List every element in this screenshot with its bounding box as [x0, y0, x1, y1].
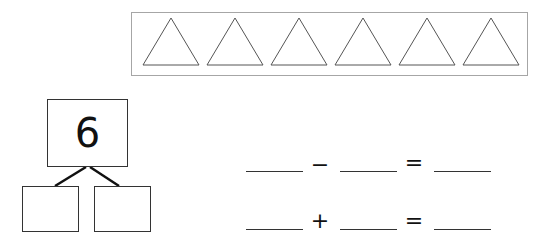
equals-sign: = [402, 210, 426, 232]
equation-2-blank-2[interactable] [340, 229, 397, 230]
minus-sign: − [308, 154, 332, 176]
plus-sign: + [308, 210, 332, 232]
equation-1-blank-1[interactable] [246, 171, 303, 172]
equals-sign: = [402, 152, 426, 174]
equation-1-result[interactable] [434, 171, 491, 172]
equation-2-blank-1[interactable] [246, 229, 303, 230]
number-bond-part-left[interactable] [22, 186, 79, 232]
number-bond-part-right[interactable] [94, 186, 151, 232]
whole-value: 6 [75, 110, 100, 156]
equation-1-blank-2[interactable] [340, 171, 397, 172]
equation-2-result[interactable] [434, 229, 491, 230]
number-bond-whole: 6 [47, 99, 128, 167]
